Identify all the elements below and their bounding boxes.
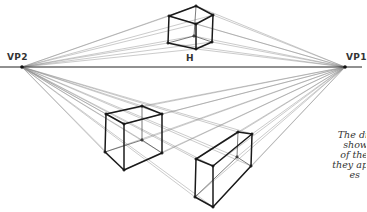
box-edge bbox=[196, 15, 213, 24]
box-edge bbox=[195, 197, 213, 207]
construction-line-vp2 bbox=[22, 67, 195, 197]
box-edge bbox=[196, 6, 213, 15]
box-edge bbox=[106, 106, 142, 114]
box-edge bbox=[168, 16, 169, 43]
vp1-label: VP1 bbox=[346, 52, 367, 62]
box-edge bbox=[195, 159, 196, 197]
box-edge bbox=[169, 16, 196, 24]
box-edge bbox=[196, 159, 213, 166]
construction-line-vp1 bbox=[252, 67, 345, 134]
caption-text: The di show of the they ap es bbox=[300, 130, 366, 180]
caption-line: es bbox=[300, 170, 366, 180]
vp1-point bbox=[343, 65, 347, 69]
construction-line-vp2 bbox=[22, 24, 196, 67]
box-edge bbox=[105, 114, 106, 152]
horizon-label: H bbox=[186, 53, 194, 63]
box-edge bbox=[169, 6, 196, 16]
hidden-edge bbox=[168, 36, 194, 43]
construction-line-vp2 bbox=[22, 15, 213, 67]
construction-lines bbox=[22, 6, 345, 207]
construction-line-vp1 bbox=[212, 42, 345, 67]
construction-line-vp2 bbox=[22, 67, 252, 134]
construction-line-vp2 bbox=[22, 43, 168, 67]
vp2-point bbox=[20, 65, 24, 69]
construction-line-vp1 bbox=[168, 43, 345, 67]
box-edge bbox=[105, 152, 124, 170]
box-edge bbox=[238, 132, 252, 134]
box-edge bbox=[106, 114, 124, 124]
box-edge bbox=[212, 15, 213, 42]
construction-line-vp1 bbox=[196, 24, 345, 67]
hidden-edge bbox=[237, 157, 251, 166]
hidden-edge bbox=[237, 132, 238, 157]
vertex-marks bbox=[103, 4, 254, 209]
box-edge bbox=[168, 43, 196, 49]
construction-line-vp2 bbox=[22, 67, 213, 166]
box-edge bbox=[251, 134, 252, 166]
hidden-edge bbox=[142, 140, 162, 153]
box-edge bbox=[142, 106, 162, 114]
box-edge bbox=[213, 166, 251, 207]
vp2-label: VP2 bbox=[7, 52, 28, 62]
box-edge bbox=[124, 114, 162, 124]
box-edges bbox=[105, 6, 252, 207]
construction-line-vp1 bbox=[142, 67, 345, 106]
